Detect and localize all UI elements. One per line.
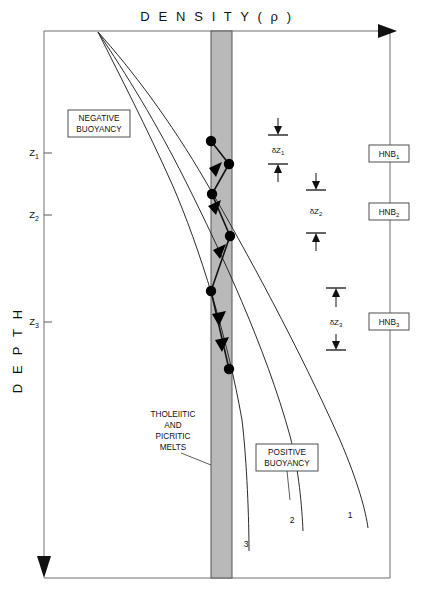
negative-buoyancy-callout: NEGATIVE BUOYANCY bbox=[68, 110, 130, 137]
melt-label-line3: PICRITIC bbox=[155, 432, 190, 441]
positive-buoyancy-label-line1: POSITIVE bbox=[268, 448, 306, 457]
dz2-bottom-arrowhead bbox=[312, 233, 320, 242]
curve-number-labels: 3 2 1 bbox=[244, 510, 353, 549]
dz1-label: δZ1 bbox=[272, 146, 285, 156]
dz3-top-arrowhead bbox=[332, 288, 340, 297]
positive-buoyancy-leader bbox=[287, 471, 290, 500]
negative-buoyancy-label-line1: NEGATIVE bbox=[79, 114, 120, 123]
depth-axis-arrowhead bbox=[37, 556, 51, 578]
diagram-canvas: D E N S I T Y ( ρ ) D E P T H Z1 Z2 Z3 bbox=[0, 0, 421, 591]
melt-label-line1: THOLEIITIC bbox=[150, 410, 195, 419]
density-axis-arrowhead bbox=[378, 24, 397, 38]
hnb-levels: HNB1 HNB2 HNB3 bbox=[369, 145, 409, 330]
node-dot bbox=[206, 286, 216, 296]
depth-axis-label: D E P T H bbox=[10, 307, 25, 394]
density-curve-1 bbox=[98, 32, 368, 528]
dz2-label: δZ2 bbox=[310, 207, 323, 217]
density-curves bbox=[98, 32, 368, 551]
depth-tick-label-z1: Z1 bbox=[29, 147, 39, 160]
positive-buoyancy-callout: POSITIVE BUOYANCY bbox=[256, 444, 318, 500]
depth-tick-label-z3: Z3 bbox=[29, 316, 39, 329]
melt-band-callout: THOLEIITIC AND PICRITIC MELTS bbox=[150, 410, 211, 465]
node-dot bbox=[207, 189, 217, 199]
dz2-top-arrowhead bbox=[312, 181, 320, 190]
curve-label-2: 2 bbox=[290, 515, 295, 525]
node-dot bbox=[225, 231, 235, 241]
dz3-label: δZ3 bbox=[330, 318, 343, 328]
depth-interval-dz2: δZ2 bbox=[306, 173, 326, 251]
chart-title: D E N S I T Y ( ρ ) bbox=[140, 9, 293, 24]
dz1-top-arrowhead bbox=[274, 126, 282, 135]
node-dot bbox=[206, 136, 216, 146]
node-dot bbox=[224, 159, 234, 169]
depth-tick-label-z2: Z2 bbox=[29, 209, 39, 222]
negative-buoyancy-label-line2: BUOYANCY bbox=[76, 125, 122, 134]
density-depth-diagram: D E N S I T Y ( ρ ) D E P T H Z1 Z2 Z3 bbox=[0, 0, 421, 591]
positive-buoyancy-label-line2: BUOYANCY bbox=[264, 459, 310, 468]
node-dot bbox=[224, 364, 234, 374]
curve-label-1: 1 bbox=[348, 510, 353, 520]
dz1-bottom-arrowhead bbox=[274, 164, 282, 173]
melt-label-leader bbox=[181, 453, 211, 465]
melt-label-line2: AND bbox=[164, 421, 181, 430]
depth-interval-dz3: δZ3 bbox=[326, 288, 346, 350]
depth-interval-dz1: δZ1 bbox=[268, 118, 288, 182]
curve-label-3: 3 bbox=[244, 539, 249, 549]
depth-tick-group: Z1 Z2 Z3 bbox=[29, 147, 52, 329]
melt-label-line4: MELTS bbox=[160, 443, 187, 452]
dz3-bottom-arrowhead bbox=[332, 341, 340, 350]
